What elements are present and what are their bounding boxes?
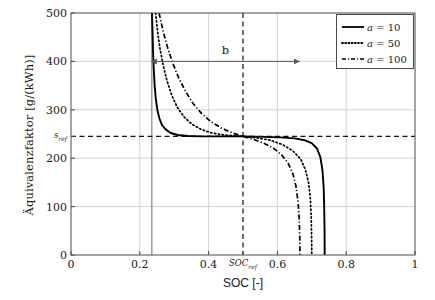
annotation-b-label: b	[222, 43, 229, 57]
legend-item: a = 100	[337, 51, 413, 67]
y-tick-300: 300	[33, 103, 67, 116]
legend-label-a50: a = 50	[367, 38, 400, 49]
y-tick-s-ref: sref	[33, 131, 67, 143]
legend-label-a100: a = 100	[367, 54, 407, 65]
x-axis-label: SOC [-]	[71, 276, 415, 290]
legend: a = 10 a = 50 a = 100	[336, 14, 414, 69]
y-tick-100: 100	[33, 200, 67, 213]
y-tick-500: 500	[33, 7, 67, 20]
x-tick-0.8: 0.8	[316, 258, 376, 271]
x-tick-soc-ref: SOCref	[213, 258, 273, 270]
legend-key-solid	[341, 21, 365, 33]
legend-label-a10: a = 10	[367, 22, 400, 33]
x-tick-0: 0	[41, 258, 101, 271]
y-tick-200: 200	[33, 152, 67, 165]
chart-figure: Äquivalenzfaktor [g/(kWh)] SOC [-] 01002…	[0, 0, 435, 300]
y-tick-400: 400	[33, 55, 67, 68]
x-tick-1: 1	[385, 258, 435, 271]
legend-item: a = 50	[337, 35, 413, 51]
legend-key-dashdot	[341, 53, 365, 65]
legend-key-dotted	[341, 37, 365, 49]
legend-item: a = 10	[337, 19, 413, 35]
curve-a-100	[159, 13, 300, 255]
data-curves	[152, 13, 325, 255]
x-tick-0.2: 0.2	[110, 258, 170, 271]
